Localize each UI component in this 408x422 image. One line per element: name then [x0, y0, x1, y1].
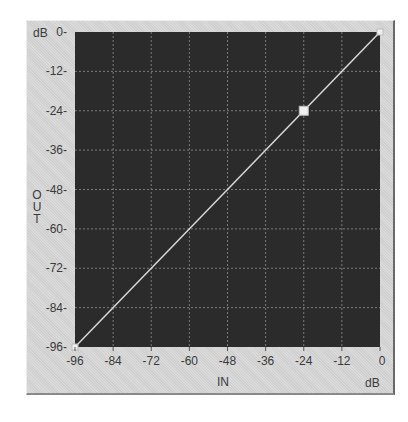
y-tick-label: -24-	[27, 105, 67, 117]
y-axis-title: O U T	[32, 189, 42, 225]
x-tick-label: -72	[136, 355, 166, 367]
compressor-graph-panel: dB 0--12--24--36--48--60--72--84--96- -9…	[26, 20, 395, 395]
y-title-letter: T	[32, 213, 42, 225]
x-tick-label: -48	[213, 355, 243, 367]
y-tick-label: -72-	[27, 262, 67, 274]
y-tick-label: 0-	[27, 26, 67, 38]
control-point-handle[interactable]	[299, 106, 308, 115]
control-point-handle[interactable]	[377, 29, 383, 35]
x-tick-label: -84	[98, 355, 128, 367]
x-tick-label: -24	[289, 355, 319, 367]
x-tick-label: -36	[251, 355, 281, 367]
x-unit-label: dB	[365, 377, 380, 389]
x-axis-title: IN	[217, 376, 229, 388]
y-tick-label: -36-	[27, 144, 67, 156]
plot-area[interactable]	[75, 32, 380, 347]
y-tick-label: -84-	[27, 302, 67, 314]
transfer-curve-graph[interactable]	[75, 32, 380, 347]
x-tick-label: 0	[367, 355, 397, 367]
x-tick-label: -60	[174, 355, 204, 367]
y-tick-label: -12-	[27, 65, 67, 77]
x-tick-label: -12	[327, 355, 357, 367]
y-tick-label: -96-	[27, 341, 67, 353]
x-tick-label: -96	[60, 355, 90, 367]
